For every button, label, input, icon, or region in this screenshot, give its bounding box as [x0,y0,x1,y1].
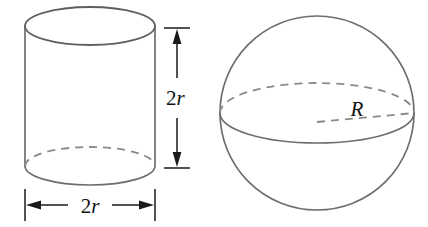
diameter-label-number: 2 [81,194,92,218]
sphere-outline [220,16,414,210]
cylinder-shape [25,7,155,185]
sphere-equator-front-arc [220,113,414,143]
cylinder-top-ellipse [25,7,155,45]
sphere-shape: R [220,16,414,210]
diameter-dimension-arrow-right-icon [139,201,154,210]
cylinder-bottom-hidden-arc [25,147,155,166]
cylinder-bottom-front-arc [25,166,155,185]
height-label-number: 2 [166,86,177,110]
diameter-label-variable: r [91,194,100,218]
geometry-figure: 2r 2r [0,0,428,227]
sphere-radius-line [317,113,414,122]
diameter-dimension-group: 2r [25,189,155,221]
sphere-radius-label: R [350,97,364,121]
diameter-dimension-arrow-left-icon [26,201,41,210]
height-dimension-arrow-up-icon [173,29,182,44]
height-dimension-arrow-down-icon [173,152,182,167]
sphere-equator-hidden-arc [220,83,414,113]
diameter-dimension-label: 2r [81,194,101,218]
height-dimension-group: 2r [164,28,190,168]
height-label-variable: r [177,86,186,110]
height-dimension-label: 2r [166,86,186,110]
figure-canvas: 2r 2r [0,0,428,227]
